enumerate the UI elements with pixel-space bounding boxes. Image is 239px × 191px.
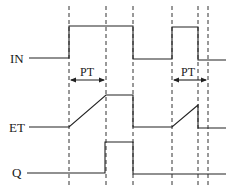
arrow-right-icon (201, 78, 207, 83)
signal-in-waveform (29, 26, 226, 60)
pt-label-1: PT (80, 65, 95, 79)
signal-q-waveform (27, 142, 226, 174)
arrow-left-icon (173, 78, 179, 83)
pt-label-2: PT (181, 65, 196, 79)
pt-interval-2: PT (173, 65, 207, 83)
timing-diagram: IN PT PT ET Q (0, 0, 239, 191)
signal-label-in: IN (10, 51, 24, 66)
arrow-left-icon (70, 78, 76, 83)
arrow-right-icon (99, 78, 105, 83)
signal-et-waveform (29, 95, 226, 128)
pt-interval-1: PT (70, 65, 105, 83)
guide-lines (69, 6, 208, 186)
signal-label-q: Q (12, 165, 22, 180)
signal-label-et: ET (9, 120, 25, 135)
